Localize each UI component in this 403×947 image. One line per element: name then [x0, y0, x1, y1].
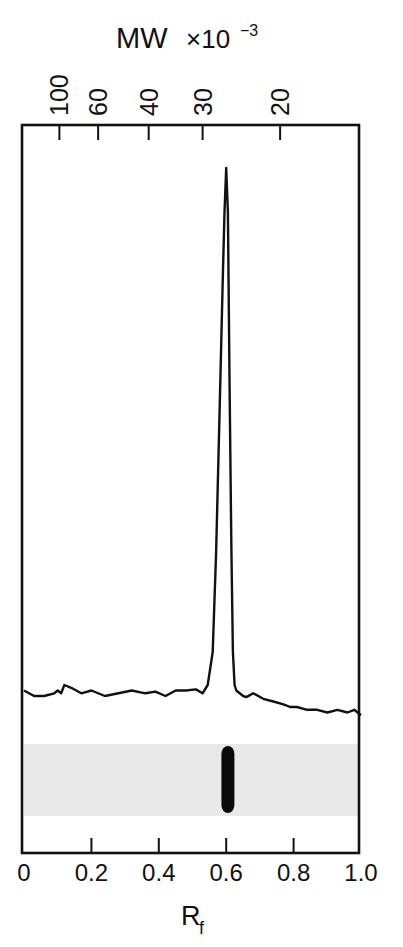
bottom-axis-ticks	[91, 838, 293, 853]
top-tick-label: 40	[135, 88, 163, 116]
top-axis-title: MW ×10 −3	[116, 22, 258, 54]
bottom-tick-label: 0	[17, 859, 30, 886]
bottom-tick-label: 1.0	[344, 859, 377, 886]
top-tick-label: 20	[266, 88, 294, 116]
gel-band	[221, 746, 234, 813]
bottom-tick-label: 0.4	[142, 859, 175, 886]
top-tick-labels: 10060403020	[45, 74, 294, 116]
top-tick-label: 60	[84, 88, 112, 116]
bottom-axis-label: R	[181, 901, 201, 931]
bottom-axis-title: R f	[181, 901, 205, 938]
bottom-tick-label: 0.8	[277, 859, 310, 886]
bottom-tick-label: 0.2	[75, 859, 108, 886]
densitometer-trace	[24, 168, 361, 715]
top-axis-exponent: −3	[240, 22, 258, 39]
top-tick-label: 30	[189, 88, 217, 116]
plot-frame	[22, 125, 359, 853]
densitometry-chart: MW ×10 −3 10060403020 00.20.40.60.81.0 R…	[0, 0, 403, 947]
bottom-tick-label: 0.6	[210, 859, 243, 886]
bottom-axis-label-sub: f	[199, 918, 205, 938]
gel-lane	[24, 744, 358, 816]
top-axis-label: MW	[116, 22, 168, 54]
bottom-tick-labels: 00.20.40.60.81.0	[17, 859, 377, 886]
top-axis-ticks	[59, 125, 280, 140]
top-tick-label: 100	[45, 74, 73, 116]
top-axis-multiplier: ×10	[186, 24, 230, 54]
